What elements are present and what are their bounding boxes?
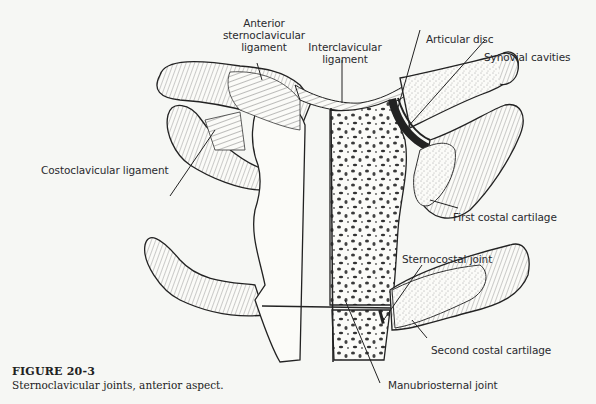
manubrium-section — [330, 100, 406, 305]
left-second-rib — [145, 238, 265, 316]
label-line: Anterior — [212, 17, 316, 29]
figure-caption: Sternoclavicular joints, anterior aspect… — [12, 379, 224, 391]
label-manubriosternal-joint: Manubriosternal joint — [388, 379, 498, 391]
label-costoclavicular-ligament: Costoclavicular ligament — [41, 164, 168, 176]
figure-number: FIGURE 20-3 — [12, 365, 95, 378]
left-manubrium-surface — [252, 95, 305, 362]
label-synovial-cavities: Synovial cavities — [484, 51, 570, 63]
label-interclavicular-ligament: Interclavicular ligament — [300, 41, 390, 65]
label-sternocostal-joint: Sternocostal joint — [402, 253, 492, 265]
label-first-costal-cartilage: First costal cartilage — [453, 211, 557, 223]
label-line: ligament — [300, 53, 390, 65]
label-line: Interclavicular — [300, 41, 390, 53]
anatomy-figure: Anterior sternoclavicular ligament Inter… — [0, 0, 596, 404]
label-line: sternoclavicular — [212, 29, 316, 41]
label-articular-disc: Articular disc — [426, 33, 493, 45]
label-second-costal-cartilage: Second costal cartilage — [431, 344, 551, 356]
right-first-rib — [414, 105, 524, 219]
